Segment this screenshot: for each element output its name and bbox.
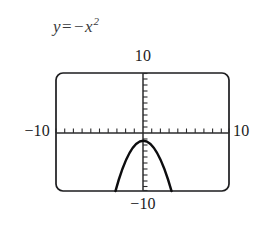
y-axis-min-label: −10 bbox=[130, 195, 156, 213]
x-axis-max-label: 10 bbox=[233, 122, 249, 140]
equation-label: y=−x2 bbox=[53, 17, 99, 37]
x-axis-min-label: −10 bbox=[24, 122, 52, 140]
graph-canvas bbox=[55, 72, 230, 192]
equation-minus-sign: − bbox=[73, 17, 85, 36]
equation-lhs: y bbox=[53, 17, 61, 36]
y-axis-max-label: 10 bbox=[135, 47, 151, 65]
equation-base: x bbox=[85, 17, 93, 36]
equation-equals: = bbox=[61, 17, 73, 36]
equation-exponent: 2 bbox=[93, 15, 99, 27]
graph-figure: y=−x2 bbox=[0, 0, 272, 225]
calculator-screen bbox=[55, 72, 230, 192]
